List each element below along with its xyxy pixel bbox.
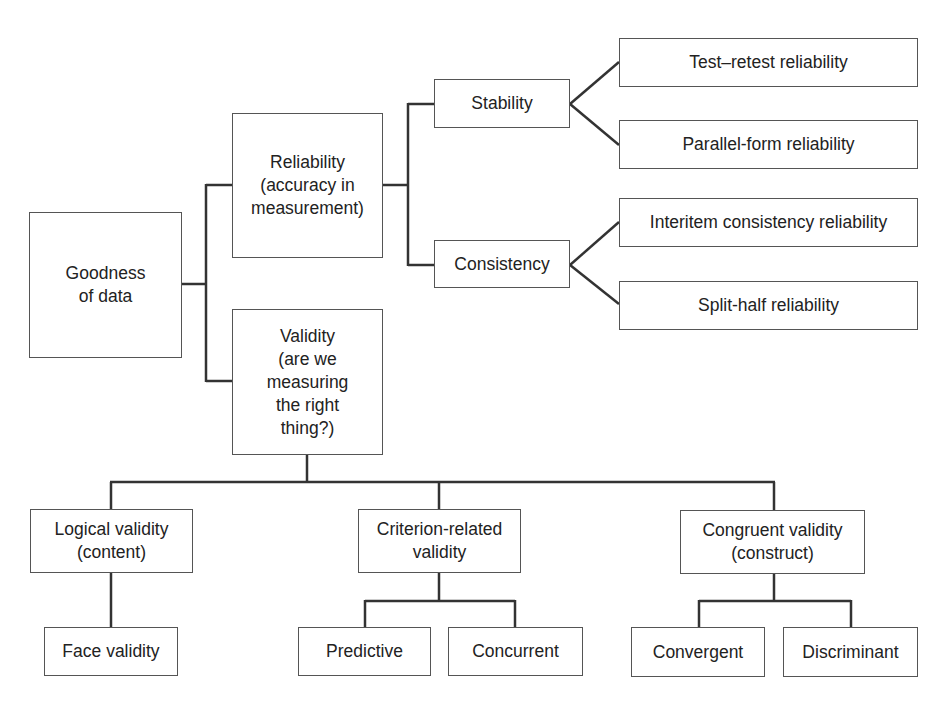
validity-box: Validity (are we measuring the right thi…	[232, 309, 383, 455]
face-validity-box: Face validity	[44, 627, 178, 676]
congruent-validity-box: Congruent validity (construct)	[680, 510, 865, 574]
reliability-box: Reliability (accuracy in measurement)	[232, 113, 383, 258]
discriminant-box: Discriminant	[783, 627, 918, 677]
split-half-reliability-label: Split-half reliability	[698, 294, 839, 317]
interitem-consistency-reliability-label: Interitem consistency reliability	[650, 211, 887, 234]
interitem-consistency-reliability-box: Interitem consistency reliability	[619, 198, 918, 247]
predictive-box: Predictive	[298, 627, 431, 676]
discriminant-label: Discriminant	[802, 641, 898, 664]
predictive-label: Predictive	[326, 640, 403, 663]
reliability-label: Reliability (accuracy in measurement)	[251, 151, 364, 220]
test-retest-reliability-box: Test–retest reliability	[619, 38, 918, 87]
test-retest-reliability-label: Test–retest reliability	[689, 51, 848, 74]
parallel-form-reliability-box: Parallel-form reliability	[619, 120, 918, 169]
congruent-validity-label: Congruent validity (construct)	[702, 519, 842, 565]
parallel-form-reliability-label: Parallel-form reliability	[682, 133, 854, 156]
criterion-related-validity-label: Criterion-related validity	[377, 518, 502, 564]
validity-label: Validity (are we measuring the right thi…	[267, 325, 349, 440]
face-validity-label: Face validity	[62, 640, 159, 663]
goodness-of-data-label: Goodness of data	[66, 262, 146, 308]
stability-box: Stability	[434, 79, 570, 128]
goodness-of-data-box: Goodness of data	[29, 212, 182, 358]
concurrent-box: Concurrent	[448, 627, 583, 676]
logical-validity-label: Logical validity (content)	[55, 518, 169, 564]
convergent-box: Convergent	[631, 627, 765, 677]
consistency-box: Consistency	[434, 240, 570, 288]
logical-validity-box: Logical validity (content)	[30, 509, 193, 573]
criterion-related-validity-box: Criterion-related validity	[358, 509, 521, 573]
consistency-label: Consistency	[454, 253, 549, 276]
concurrent-label: Concurrent	[472, 640, 559, 663]
split-half-reliability-box: Split-half reliability	[619, 281, 918, 330]
stability-label: Stability	[471, 92, 532, 115]
convergent-label: Convergent	[653, 641, 743, 664]
